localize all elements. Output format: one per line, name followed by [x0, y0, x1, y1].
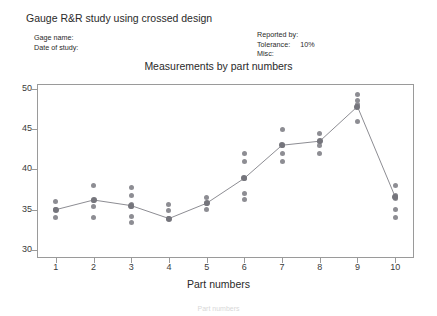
y-tick-mark [31, 210, 37, 211]
measurement-point [129, 193, 134, 198]
x-tick-mark [169, 258, 170, 263]
x-tick-label: 6 [229, 262, 259, 272]
x-tick-mark [207, 258, 208, 263]
x-tick-label: 7 [267, 262, 297, 272]
x-tick-mark [357, 258, 358, 263]
measurement-point [91, 204, 96, 209]
measurement-point [280, 159, 285, 164]
y-tick-label: 35 [6, 204, 32, 214]
x-tick-mark [395, 258, 396, 263]
mean-point [53, 207, 59, 213]
x-tick-mark [244, 258, 245, 263]
measurement-point [129, 220, 134, 225]
measurement-point [280, 127, 285, 132]
mean-point [317, 138, 323, 144]
x-tick-label: 10 [380, 262, 410, 272]
measurement-point [129, 185, 134, 190]
mean-point [392, 194, 398, 200]
y-tick-label: 40 [6, 163, 32, 173]
measurements-scatter-chart: 3035404550 12345678910 Part numbers [0, 0, 437, 316]
measurement-point [280, 151, 285, 156]
x-tick-label: 4 [154, 262, 184, 272]
mean-point [204, 200, 210, 206]
mean-point [166, 216, 172, 222]
x-tick-label: 9 [342, 262, 372, 272]
x-tick-label: 2 [79, 262, 109, 272]
x-tick-mark [131, 258, 132, 263]
measurement-point [242, 191, 247, 196]
measurement-point [242, 197, 247, 202]
x-tick-mark [320, 258, 321, 263]
measurement-point [355, 92, 360, 97]
plot-frame [37, 84, 414, 258]
x-tick-mark [94, 258, 95, 263]
x-tick-label: 3 [116, 262, 146, 272]
measurement-point [393, 215, 398, 220]
y-tick-mark [31, 169, 37, 170]
x-tick-label: 5 [192, 262, 222, 272]
x-tick-label: 8 [305, 262, 335, 272]
x-tick-label: 1 [41, 262, 71, 272]
measurement-point [242, 159, 247, 164]
measurement-point [129, 214, 134, 219]
y-tick-label: 45 [6, 123, 32, 133]
measurement-point [393, 207, 398, 212]
measurement-point [355, 98, 360, 103]
y-tick-mark [31, 250, 37, 251]
measurement-point [393, 183, 398, 188]
y-tick-mark [31, 89, 37, 90]
x-tick-mark [56, 258, 57, 263]
figure-caption: Part numbers [0, 305, 437, 312]
mean-point [128, 203, 134, 209]
mean-point [91, 197, 97, 203]
measurement-point [355, 119, 360, 124]
measurement-point [242, 151, 247, 156]
x-axis-title: Part numbers [0, 278, 437, 290]
y-tick-mark [31, 129, 37, 130]
measurement-point [317, 131, 322, 136]
y-tick-label: 50 [6, 83, 32, 93]
x-tick-mark [282, 258, 283, 263]
y-tick-label: 30 [6, 244, 32, 254]
